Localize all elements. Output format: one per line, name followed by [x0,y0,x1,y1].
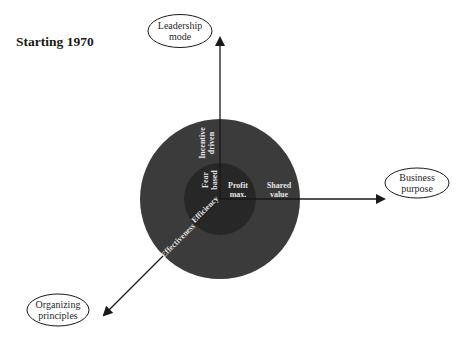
business-purpose-label: Business purpose [387,172,447,194]
shared-value-label: Shared value [262,181,296,199]
diagram-canvas [0,0,463,338]
leadership-mode-label: Leadership mode [150,20,210,42]
profit-max-label: Profit max. [222,181,254,199]
organizing-principles-label: Organizing principles [28,299,88,321]
incentive-driven-label: Incentive driven [198,118,216,168]
